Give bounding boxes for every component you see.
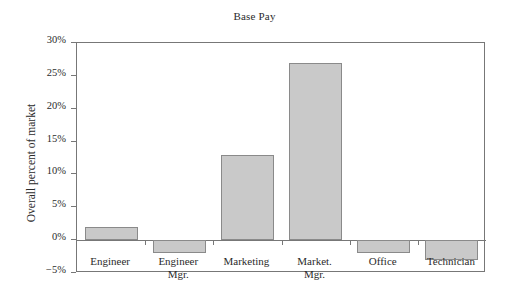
y-axis-tick-label: 15% — [47, 133, 66, 144]
y-axis-tick-label: 30% — [47, 34, 66, 45]
bar — [357, 240, 410, 253]
x-axis-tick-mark — [282, 240, 283, 245]
y-axis-tick-label: 5% — [52, 198, 66, 209]
y-axis-title: Overall percent of market — [25, 48, 37, 278]
x-axis-category-label-line2: Mgr. — [255, 268, 375, 281]
x-axis-category-label-line1: Technician — [391, 255, 509, 268]
x-axis-category-label: Technician — [391, 255, 509, 268]
y-axis-tick-label: 0% — [52, 231, 66, 242]
y-axis-tick-label: 25% — [47, 67, 66, 78]
x-axis-tick-mark — [213, 240, 214, 245]
x-axis-tick-mark — [145, 240, 146, 245]
x-axis-tick-mark — [418, 240, 419, 245]
y-axis-tick-label: 20% — [47, 100, 66, 111]
bar — [85, 227, 138, 240]
bar-chart-figure: Base Pay Overall percent of market 30%25… — [0, 0, 509, 303]
y-axis-tick-label: 10% — [47, 165, 66, 176]
y-axis-tick-mark — [71, 272, 76, 273]
bar — [221, 155, 274, 240]
plot-area — [76, 42, 485, 272]
x-axis-category-label-line2: Mgr. — [118, 268, 238, 281]
x-axis-tick-mark — [350, 240, 351, 245]
chart-title: Base Pay — [0, 10, 509, 22]
bar — [153, 240, 206, 253]
bar — [289, 63, 342, 240]
